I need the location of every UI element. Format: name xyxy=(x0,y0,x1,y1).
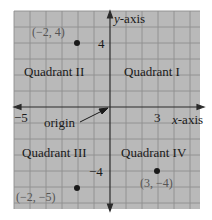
quadrant-iv-label: Quadrant IV xyxy=(121,146,186,159)
y-tick-neg4: −4 xyxy=(89,165,103,178)
quadrant-ii-label: Quadrant II xyxy=(24,65,84,78)
x-axis-right-arrow-icon xyxy=(197,105,204,110)
point-label-neg2-neg5: (−2, −5) xyxy=(16,191,56,203)
x-axis-label: x-axis xyxy=(172,113,203,126)
quadrant-iii-label: Quadrant III xyxy=(22,146,87,159)
quadrant-i-label: Quadrant I xyxy=(124,65,180,78)
point-neg2-4 xyxy=(74,40,80,46)
y-axis-label: y-axis xyxy=(114,12,145,25)
point-label-neg2-4: (−2, 4) xyxy=(32,26,65,38)
y-axis-down-arrow-icon xyxy=(108,204,113,211)
point-3-neg4 xyxy=(154,168,160,174)
x-tick-3: 3 xyxy=(154,111,161,124)
y-tick-4: 4 xyxy=(98,37,105,50)
x-tick-neg5: −5 xyxy=(14,111,28,124)
point-neg2-neg5 xyxy=(74,185,80,191)
point-label-3-neg4: (3, −4) xyxy=(140,177,173,189)
origin-label: origin xyxy=(44,116,75,129)
